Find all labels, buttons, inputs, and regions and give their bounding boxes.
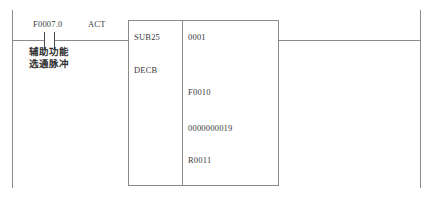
function-block-mnemonic: DECB [134, 66, 157, 75]
function-block-column-divider [182, 20, 183, 186]
ladder-diagram-canvas: F0007.0 ACT 辅助功能 选通脉冲 SUB25 DECB 0001 F0… [0, 0, 434, 200]
left-power-rail [12, 10, 13, 188]
act-signal-label: ACT [88, 20, 106, 29]
function-block-parameter: F0010 [188, 88, 211, 97]
rung-wire-middle [54, 40, 128, 41]
function-block-parameter: 0000000019 [188, 124, 233, 133]
rung-wire-left [12, 40, 44, 41]
function-block-parameter: R0011 [188, 156, 211, 165]
function-block-parameter: 0001 [188, 33, 206, 42]
rung-wire-output [278, 40, 421, 41]
annotation-line-1: 辅助功能 [29, 46, 69, 58]
function-block-left-border [128, 20, 129, 186]
function-block-right-border [278, 20, 279, 186]
contact-address-label: F0007.0 [33, 20, 63, 29]
function-block-bottom-border [128, 185, 279, 186]
right-power-rail [420, 10, 421, 188]
contact-annotation: 辅助功能 选通脉冲 [29, 46, 69, 70]
annotation-line-2: 选通脉冲 [29, 58, 69, 70]
function-block-instruction: SUB25 [134, 33, 160, 42]
function-block-top-border [128, 20, 279, 21]
